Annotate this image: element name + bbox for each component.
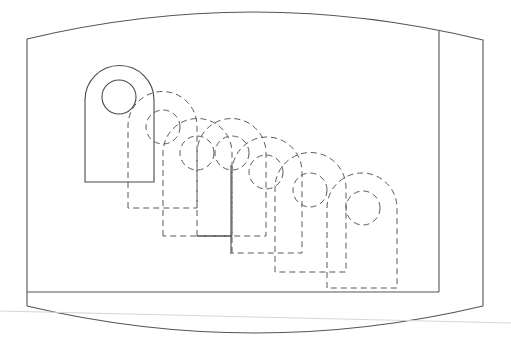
hole-circle bbox=[293, 173, 327, 207]
lug-outline bbox=[232, 137, 302, 253]
solid-segments bbox=[197, 165, 232, 254]
lug-s0 bbox=[85, 66, 154, 182]
plate-outline bbox=[27, 12, 483, 333]
plate-frame bbox=[27, 12, 483, 333]
lug-outline bbox=[275, 153, 346, 273]
lug-outline bbox=[327, 173, 397, 288]
lug-s6 bbox=[327, 173, 397, 288]
hole-circle bbox=[102, 80, 136, 114]
lug-s5 bbox=[275, 153, 346, 273]
technical-drawing bbox=[0, 0, 511, 344]
lug-shapes bbox=[85, 66, 397, 288]
lug-s4 bbox=[232, 137, 302, 253]
drawing-canvas bbox=[0, 0, 511, 344]
hole-circle bbox=[346, 191, 380, 225]
lug-outline bbox=[85, 66, 154, 182]
